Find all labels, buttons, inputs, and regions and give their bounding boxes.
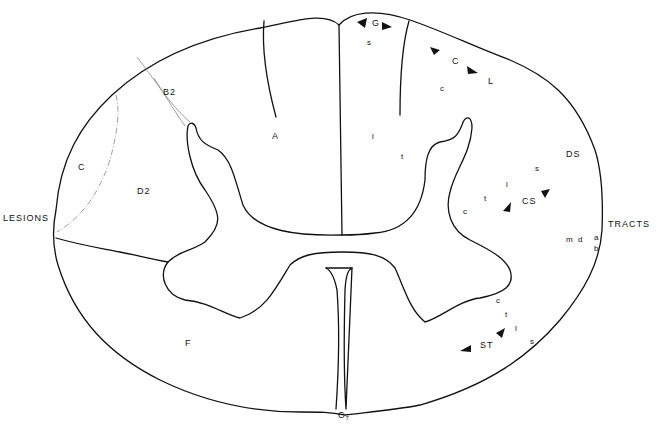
lesion-d2-label: D2 xyxy=(137,187,151,196)
left-dorsal-root-line xyxy=(264,21,277,117)
lesion-b2-border-inner xyxy=(154,78,185,126)
arrow-g-left xyxy=(357,18,367,28)
arrow-cs-lower xyxy=(503,202,511,212)
spinal-cord-cross-section xyxy=(0,0,661,428)
tract-st-c-label: c xyxy=(496,297,500,305)
center-l-label: l xyxy=(372,133,374,141)
segment-number: 7 xyxy=(346,415,350,421)
arrow-cs-upper xyxy=(541,189,550,198)
tract-ds-label: DS xyxy=(566,150,581,159)
center-t-label: t xyxy=(401,153,403,161)
segment-label: C7 xyxy=(338,411,350,421)
tract-st-label: ST xyxy=(480,341,494,350)
tract-d-label: d xyxy=(578,236,582,244)
arrow-st-upper xyxy=(496,328,505,338)
tract-cs-t-label: t xyxy=(484,195,486,203)
tract-b-label: b xyxy=(594,245,598,253)
lesion-a-label: A xyxy=(272,132,279,141)
ventral-median-fissure xyxy=(326,268,352,409)
tract-st-l-label: l xyxy=(515,325,517,333)
tract-m-label: m xyxy=(566,236,573,244)
tract-cl-c-label: C xyxy=(452,57,460,66)
tract-cl-c-small-label: c xyxy=(440,85,444,93)
tract-a-label: a xyxy=(594,234,598,242)
arrow-l-lower xyxy=(467,66,478,74)
lesion-f-label: F xyxy=(185,339,192,348)
lesion-b2-label: B2 xyxy=(163,88,176,97)
lesions-label: LESIONS xyxy=(3,214,49,223)
tracts-label: TRACTS xyxy=(608,220,650,229)
lesion-c-label: C xyxy=(78,163,86,172)
tract-g-s-label: s xyxy=(367,39,371,47)
tract-cs-c-label: c xyxy=(463,208,467,216)
tract-g-label: G xyxy=(372,19,380,28)
lesion-d2-lower-border xyxy=(56,238,168,262)
tract-cl-l-label: L xyxy=(488,77,494,86)
arrow-g-right xyxy=(382,22,392,30)
tract-st-t-label: t xyxy=(505,311,507,319)
arrow-c-upper xyxy=(430,47,440,55)
dorsal-median-septum xyxy=(339,25,342,235)
tract-cs-s-label: s xyxy=(535,165,539,173)
tract-cs-l-label: l xyxy=(506,181,508,189)
right-dorsal-root-line xyxy=(400,21,409,115)
cord-outline xyxy=(54,13,603,415)
segment-letter: C xyxy=(338,410,346,420)
arrow-st-lower xyxy=(460,345,471,352)
tract-st-s-label: s xyxy=(530,338,534,346)
tract-cs-label: CS xyxy=(522,197,537,206)
